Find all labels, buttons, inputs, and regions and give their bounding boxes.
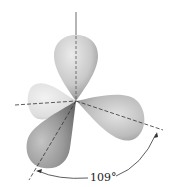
angle-label: 109° (90, 171, 117, 184)
sp3-orbital-diagram: 109° (0, 0, 172, 187)
orbital-svg: 109° (0, 0, 172, 187)
lobe-right (76, 95, 144, 141)
arc-arrowhead-left (36, 169, 42, 173)
arc-arrowhead-right (154, 132, 158, 138)
